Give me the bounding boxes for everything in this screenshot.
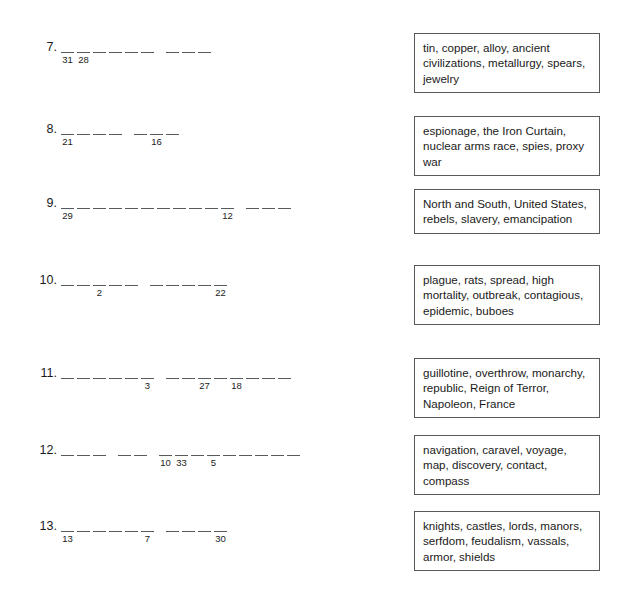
answer-blank[interactable]: 21 — [61, 123, 74, 149]
answer-blank[interactable] — [61, 367, 74, 393]
answer-blank[interactable] — [166, 520, 179, 546]
blank-rule — [93, 208, 106, 209]
answer-blank[interactable] — [223, 444, 236, 470]
answer-blank[interactable] — [93, 197, 106, 223]
answer-blank[interactable]: 10 — [159, 444, 172, 470]
answer-blank[interactable]: 29 — [61, 197, 74, 223]
answer-blank[interactable] — [134, 444, 147, 470]
answer-blank[interactable] — [166, 367, 179, 393]
blank-group: 10335 — [159, 444, 303, 470]
answer-blank[interactable]: 31 — [61, 41, 74, 67]
answer-blank[interactable] — [77, 197, 90, 223]
answer-blank[interactable] — [125, 274, 138, 300]
answer-blank[interactable]: 30 — [214, 520, 227, 546]
blank-rule — [125, 378, 138, 379]
answer-blank[interactable] — [141, 197, 154, 223]
answer-blank[interactable] — [214, 367, 227, 393]
answer-blank[interactable]: 28 — [77, 41, 90, 67]
answer-blank[interactable] — [77, 444, 90, 470]
blank-group: 21 — [61, 123, 125, 149]
answer-blank[interactable]: 22 — [214, 274, 227, 300]
answer-blank[interactable] — [278, 367, 291, 393]
answer-blank[interactable] — [125, 197, 138, 223]
answer-blank[interactable] — [109, 197, 122, 223]
answer-blank[interactable] — [150, 274, 163, 300]
answer-blank[interactable] — [134, 123, 147, 149]
clue-box: tin, copper, alloy, ancient civilization… — [414, 33, 600, 93]
answer-blank[interactable] — [93, 444, 106, 470]
blank-rule — [278, 378, 291, 379]
answer-blank[interactable] — [77, 367, 90, 393]
answer-blank[interactable] — [93, 367, 106, 393]
blank-rule — [77, 208, 90, 209]
answer-blank[interactable] — [125, 41, 138, 67]
answer-blank[interactable] — [166, 41, 179, 67]
answer-blank[interactable] — [182, 41, 195, 67]
answer-blank[interactable] — [198, 274, 211, 300]
blank-rule — [125, 208, 138, 209]
answer-blank[interactable] — [125, 520, 138, 546]
answer-blank[interactable] — [166, 123, 179, 149]
blank-rule — [287, 455, 300, 456]
blank-rule — [278, 208, 291, 209]
answer-blank[interactable] — [93, 123, 106, 149]
answer-blank[interactable] — [109, 274, 122, 300]
blank-rule — [182, 378, 195, 379]
answer-blank[interactable]: 13 — [61, 520, 74, 546]
answer-blank[interactable] — [109, 41, 122, 67]
blank-group: 16 — [134, 123, 182, 149]
answer-blank[interactable]: 27 — [198, 367, 211, 393]
answer-blank[interactable] — [262, 367, 275, 393]
answer-blank[interactable]: 2 — [93, 274, 106, 300]
answer-blank[interactable] — [157, 197, 170, 223]
answer-area: 9.2912 — [0, 196, 294, 223]
item-number: 10. — [33, 273, 61, 287]
blank-group — [166, 41, 214, 67]
blank-rule — [150, 285, 163, 286]
answer-blank[interactable] — [109, 367, 122, 393]
answer-blank[interactable]: 12 — [221, 197, 234, 223]
answer-blank[interactable]: 18 — [230, 367, 243, 393]
answer-blank[interactable] — [239, 444, 252, 470]
answer-blank[interactable]: 7 — [141, 520, 154, 546]
answer-blank[interactable] — [141, 41, 154, 67]
blank-rule — [125, 531, 138, 532]
answer-blank[interactable] — [191, 444, 204, 470]
answer-blank[interactable] — [246, 367, 259, 393]
answer-blank[interactable] — [61, 444, 74, 470]
answer-blank[interactable] — [109, 520, 122, 546]
answer-blank[interactable] — [182, 274, 195, 300]
answer-blank[interactable] — [246, 197, 259, 223]
answer-blank[interactable] — [271, 444, 284, 470]
answer-blank[interactable]: 33 — [175, 444, 188, 470]
answer-blank[interactable]: 16 — [150, 123, 163, 149]
answer-blank[interactable] — [61, 274, 74, 300]
answer-blank[interactable] — [77, 520, 90, 546]
answer-blank[interactable] — [109, 123, 122, 149]
answer-blank[interactable] — [189, 197, 202, 223]
answer-blank[interactable] — [166, 274, 179, 300]
answer-area: 10.222 — [0, 273, 230, 300]
answer-blank[interactable] — [173, 197, 186, 223]
answer-blank[interactable] — [182, 367, 195, 393]
answer-blank[interactable] — [278, 197, 291, 223]
answer-blank[interactable] — [93, 520, 106, 546]
answer-blank[interactable] — [262, 197, 275, 223]
blank-rule — [109, 378, 122, 379]
answer-blank[interactable] — [77, 123, 90, 149]
blank-index-number: 3 — [145, 380, 150, 391]
answer-blank[interactable] — [182, 520, 195, 546]
answer-blank[interactable] — [205, 197, 218, 223]
answer-blank[interactable] — [198, 41, 211, 67]
blank-rule — [109, 531, 122, 532]
answer-blank[interactable] — [198, 520, 211, 546]
answer-blank[interactable] — [287, 444, 300, 470]
answer-blank[interactable]: 3 — [141, 367, 154, 393]
answer-blank[interactable] — [255, 444, 268, 470]
answer-blank[interactable] — [93, 41, 106, 67]
blank-rule — [61, 208, 74, 209]
answer-blank[interactable] — [125, 367, 138, 393]
answer-blank[interactable]: 5 — [207, 444, 220, 470]
answer-blank[interactable] — [118, 444, 131, 470]
answer-blank[interactable] — [77, 274, 90, 300]
